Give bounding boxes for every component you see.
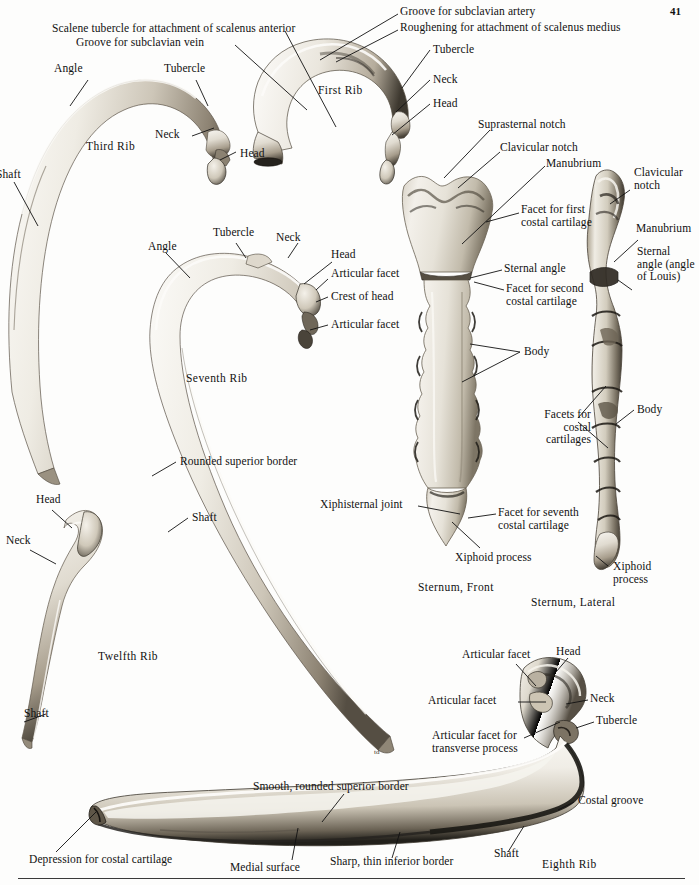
label-costal-groove: Costal groove [578, 794, 644, 807]
label-facet-seventh-costal-cartilage: Facet for seventh costal cartilage [498, 506, 590, 531]
label-eighth-rib-tubercle: Tubercle [596, 714, 637, 727]
caption-eighth-rib: Eighth Rib [542, 858, 597, 870]
label-sharp-thin-inferior-border: Sharp, thin inferior border [330, 855, 453, 868]
label-sternal-angle-front: Sternal angle [504, 262, 566, 275]
label-manubrium-front: Manubrium [546, 157, 601, 170]
label-articular-facet-transverse-process: Articular facet for transverse process [432, 729, 550, 754]
label-sternal-angle-of-louis: Sternal angle (angle of Louis) [637, 245, 697, 283]
first-rib-bone [253, 39, 410, 184]
label-rounded-superior-border: Rounded superior border [180, 455, 297, 468]
caption-twelfth-rib: Twelfth Rib [98, 650, 158, 662]
label-seventh-rib-articular-facet-upper: Articular facet [331, 267, 399, 280]
label-manubrium-lateral: Manubrium [636, 222, 691, 235]
label-first-rib-neck: Neck [433, 73, 458, 86]
label-xiphoid-process-lateral: Xiphoid process [613, 560, 665, 585]
label-facets-for-costal-cartilages: Facets for costal cartilages [519, 408, 591, 446]
caption-first-rib: First Rib [318, 84, 363, 96]
caption-seventh-rib: Seventh Rib [186, 372, 248, 384]
label-eighth-rib-articular-facet-top: Articular facet [462, 648, 530, 661]
label-seventh-rib-crest-of-head: Crest of head [331, 290, 394, 303]
label-suprasternal-notch: Suprasternal notch [478, 118, 566, 131]
label-body-front: Body [524, 345, 549, 358]
label-facet-second-costal-cartilage: Facet for second costal cartilage [506, 282, 592, 307]
label-seventh-rib-angle: Angle [148, 240, 177, 253]
caption-third-rib: Third Rib [86, 140, 135, 152]
caption-sternum-front: Sternum, Front [418, 581, 494, 593]
label-eighth-rib-articular-facet-mid: Articular facet [428, 694, 496, 707]
label-medial-surface: Medial surface [230, 861, 300, 874]
bone-illustrations: td [0, 0, 699, 885]
label-first-rib-head: Head [433, 97, 458, 110]
label-smooth-rounded-superior-border: Smooth, rounded superior border [253, 780, 409, 793]
label-third-rib-tubercle: Tubercle [164, 62, 205, 75]
label-third-rib-neck: Neck [155, 128, 180, 141]
label-first-rib-tubercle: Tubercle [433, 43, 474, 56]
caption-sternum-lateral: Sternum, Lateral [531, 596, 615, 608]
label-seventh-rib-shaft: Shaft [192, 511, 217, 524]
label-xiphisternal-joint: Xiphisternal joint [320, 498, 403, 511]
label-depression-for-costal-cartilage: Depression for costal cartilage [29, 853, 172, 866]
label-eighth-rib-shaft: Shaft [494, 847, 519, 860]
artist-monogram: td [374, 748, 380, 756]
label-groove-for-subclavian-artery: Groove for subclavian artery [400, 5, 535, 18]
label-third-rib-shaft: Shaft [0, 168, 21, 181]
label-seventh-rib-head: Head [331, 248, 356, 261]
label-twelfth-rib-shaft: Shaft [24, 707, 49, 720]
sternum-lateral-bone [587, 170, 624, 570]
label-clavicular-notch-front: Clavicular notch [500, 141, 578, 154]
label-groove-for-subclavian-vein: Groove for subclavian vein [76, 36, 204, 49]
label-body-lateral: Body [637, 403, 662, 416]
label-seventh-rib-articular-facet-lower: Articular facet [331, 318, 399, 331]
label-xiphoid-process-front: Xiphoid process [455, 551, 532, 564]
page-number: 41 [670, 5, 681, 17]
label-clavicular-notch-lateral: Clavicular notch [634, 166, 696, 191]
label-twelfth-rib-head: Head [36, 493, 61, 506]
label-third-rib-angle: Angle [54, 62, 83, 75]
label-twelfth-rib-neck: Neck [6, 534, 31, 547]
page-bottom-rule [18, 878, 685, 879]
label-seventh-rib-neck: Neck [276, 231, 301, 244]
label-eighth-rib-neck: Neck [590, 692, 615, 705]
label-scalene-tubercle: Scalene tubercle for attachment of scale… [52, 22, 295, 35]
atlas-page: td [0, 0, 699, 885]
label-third-rib-head: Head [240, 147, 265, 160]
label-eighth-rib-head: Head [556, 645, 581, 658]
label-roughening-scalenus-medius: Roughening for attachment of scalenus me… [400, 21, 621, 34]
label-facet-first-costal-cartilage: Facet for first costal cartilage [521, 203, 593, 228]
label-seventh-rib-tubercle: Tubercle [213, 226, 254, 239]
sternum-front-bone [402, 176, 492, 546]
